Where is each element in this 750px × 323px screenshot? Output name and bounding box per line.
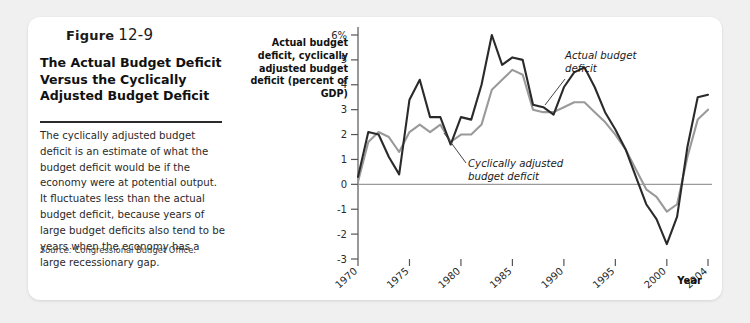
figure-root: Figure12-9 The Actual Budget Deficit Ver… [0,0,750,323]
annotation-label-actual: Actual budgetdeficit [564,50,637,74]
x-axis-tick-label: 2000 [642,265,668,290]
y-axis-tick-label: 1 [341,154,347,165]
annotation-leader-line [444,133,466,163]
y-axis-tick-label: 4 [341,79,347,90]
annotation-label-cyclically-adjusted: Cyclically adjustedbudget deficit [468,158,564,182]
figure-badge-word: Figure [66,28,114,43]
figure-title: The Actual Budget Deficit Versus the Cyc… [40,55,224,105]
x-axis-tick-label: 1980 [436,265,462,290]
y-axis-tick-label: 6% [331,30,347,41]
series-line-actual-budget-deficit [358,35,708,244]
x-axis-tick-label: 1995 [590,265,616,290]
x-axis-title: Year [677,275,702,286]
y-axis-tick-label: 2 [341,129,347,140]
x-axis-tick-label: 1970 [333,265,359,290]
x-axis-tick-label: 1985 [487,265,513,290]
figure-source-text: Congressional Budget Office. [74,245,196,255]
x-axis-tick-label: 1975 [385,265,411,290]
y-axis-tick-label: -3 [337,254,347,265]
x-axis-tick-label: 1990 [539,265,565,290]
y-axis-tick-label: -2 [337,229,347,240]
figure-badge: Figure12-9 [66,26,153,44]
figure-source-label: Source: [40,245,72,255]
y-axis-tick-label: 0 [341,179,347,190]
figure-caption-column: Figure12-9 The Actual Budget Deficit Ver… [28,17,234,300]
caption-divider [40,121,222,123]
series-line-cyclically-adjusted-budget-deficit [358,70,708,212]
chart-column: Actual budget deficit, cyclically adjust… [240,17,722,300]
y-axis-tick-label: -1 [337,204,347,215]
figure-badge-number: 12-9 [118,26,153,44]
budget-deficit-line-chart: 6%543210-1-2-319701975198019851990199520… [240,17,722,300]
y-axis-tick-label: 3 [341,104,347,115]
y-axis-tick-label: 5 [341,54,347,65]
figure-source: Source: Congressional Budget Office. [40,245,230,255]
